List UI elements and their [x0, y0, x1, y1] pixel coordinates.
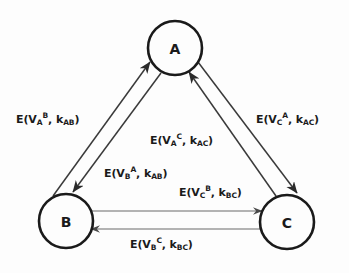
- edge-label-prefix: E(V: [179, 186, 200, 199]
- node-c[interactable]: C: [260, 195, 314, 249]
- edge-label-prefix: E(V: [130, 238, 151, 251]
- edge-label-prefix: E(V: [256, 113, 277, 126]
- node-a-label: A: [170, 41, 181, 57]
- edge-label-sup: C: [176, 132, 181, 141]
- edge-label-suffix: ): [237, 186, 242, 199]
- node-c-label: C: [282, 215, 292, 231]
- edge-label-mid: , k: [182, 134, 197, 147]
- edge-label-b-to-a: E(VAB, kAB): [16, 113, 79, 126]
- edge-label-mid: , k: [136, 167, 151, 180]
- edge-label-sup: A: [282, 111, 288, 120]
- diagram-canvas: A B C E(VAB, kAB) E(VBA, kAB) E(VCA, kAC…: [0, 0, 349, 273]
- edge-label-prefix: E(V: [16, 113, 37, 126]
- edge-label-b-to-c: E(VCB, kBC): [179, 186, 242, 199]
- edge-label-ksub: AC: [303, 118, 314, 127]
- edge-label-suffix: ): [162, 167, 167, 180]
- edge-label-mid: , k: [162, 238, 177, 251]
- edge-label-sup: C: [156, 236, 161, 245]
- edge-label-a-to-b: E(VBA, kAB): [104, 167, 167, 180]
- edge-label-c-to-b: E(VBC, kBC): [130, 238, 193, 251]
- node-b[interactable]: B: [39, 194, 93, 248]
- edge-label-ksub: AB: [151, 172, 162, 181]
- edge-label-prefix: E(V: [104, 167, 125, 180]
- edge-label-sup: A: [130, 165, 136, 174]
- edge-label-mid: , k: [211, 186, 226, 199]
- edge-label-suffix: ): [208, 134, 213, 147]
- edge-label-ksub: BC: [226, 191, 237, 200]
- edge-label-suffix: ): [74, 113, 79, 126]
- edge-label-sup: B: [42, 111, 48, 120]
- edge-label-c-to-a: E(VCA, kAC): [256, 113, 319, 126]
- edge-label-prefix: E(V: [150, 134, 171, 147]
- edge-label-suffix: ): [188, 238, 193, 251]
- edge-label-sup: B: [205, 184, 211, 193]
- node-a[interactable]: A: [148, 21, 202, 75]
- edge-label-ksub: AB: [63, 118, 74, 127]
- edge-label-ksub: BC: [177, 243, 188, 252]
- edge-label-a-to-c: E(VAC, kAC): [150, 134, 213, 147]
- edge-label-mid: , k: [288, 113, 303, 126]
- edge-label-ksub: AC: [197, 139, 208, 148]
- edge-a-to-c: [198, 62, 297, 193]
- edge-label-suffix: ): [314, 113, 319, 126]
- edge-label-mid: , k: [48, 113, 63, 126]
- node-b-label: B: [61, 214, 72, 230]
